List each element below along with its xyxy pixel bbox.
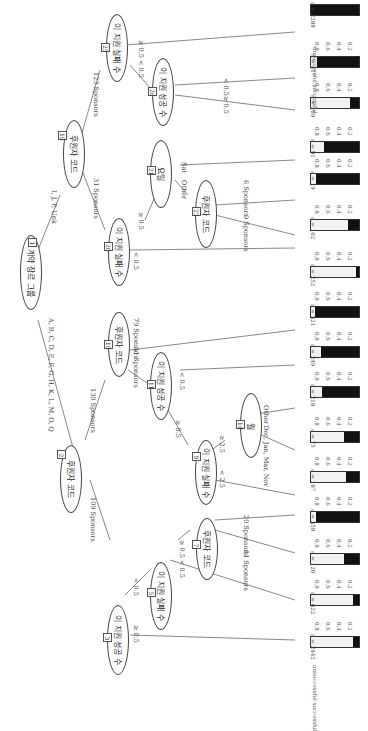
node-id-5: 5 [147,588,156,597]
node-label: 후원자 코드 [201,195,212,233]
leaf-bar-successful [311,220,348,230]
axis-tick: 0.4 [336,539,342,548]
axis-tick: 0.2 [347,622,353,631]
leaf-bar [310,636,360,648]
axis-tick: 0.6 [325,497,331,506]
axis-tick: 0.8 [314,497,320,506]
axis-tick: 0.2 [347,332,353,341]
leaf-bar [310,594,360,606]
axis-tick: 0.6 [325,42,331,51]
edge-label: < 0.5 [132,578,140,596]
axis-tick: 0.2 [347,580,353,589]
edge-label: ≥ 0.5 [137,212,145,230]
node-id-3: 3 [103,633,112,642]
node-id-19: 19 [58,131,67,140]
edge-label: Dec, Jan, Mar, Nov [262,425,270,487]
node-id-14: 14 [236,420,245,429]
leaf-bar [310,266,360,278]
axis-tick: 0.6 [325,292,331,301]
leaf-bar [310,346,360,358]
node-id-11: 11 [147,380,156,389]
edge-label: 79 Sponsors [132,318,140,359]
leaf-bar-successful [311,637,353,647]
leaf-bar-successful [311,472,346,482]
node-label: 이 지원 실패 수 [114,227,125,277]
leaf-bar [310,306,360,318]
axis-tick: 0.4 [336,159,342,168]
axis-tick: 0.4 [336,42,342,51]
leaf-count: n = 358 [310,509,316,531]
leaf-node: n = 22880.80.60.40.2 [300,0,360,40]
leaf-count: n = 120 [310,551,316,573]
axis-tick: 0.6 [325,205,331,214]
leaf-count: n = 521 [310,304,316,326]
leaf-bar-successful [311,595,353,605]
axis-tick: 0.2 [347,292,353,301]
leaf-count: n = 102 [310,217,316,239]
node-label: 이 지원 성공 수 [113,615,124,665]
node-id-1: 1 [28,238,37,247]
axis-tick: 0.4 [336,205,342,214]
axis-tick: 0.4 [336,372,342,381]
axis-tick: 0.4 [336,292,342,301]
leaf-count: n = 252 [310,264,316,286]
axis-tick: 0.4 [336,457,342,466]
axis-tick: 0.6 [325,622,331,631]
edge-label: < 2.5 [218,470,226,488]
node-id-7: 7 [192,540,201,549]
edge-label: < 0.5 [178,372,186,390]
leaf-bar [310,4,360,16]
leaf-node: n = 190.80.60.40.2 [300,169,360,209]
leaf-count: n = 249 [310,344,316,366]
axis-tick: 0.2 [347,372,353,381]
node-id-23: 23 [192,207,201,216]
node-label: 후원자 코드 [66,460,77,498]
axis-tick: 0.2 [347,127,353,136]
axis-tick: 0.6 [325,83,331,92]
node-9: 이 지원 실패 수 [195,440,217,505]
axis-tick: 0.4 [336,580,342,589]
node-label: 이 지원 성공 수 [156,361,167,411]
node-id-10: 10 [104,340,113,349]
leaf-count: n = 91 [310,139,316,158]
node-label: 월 [246,422,257,429]
axis-tick: 0.6 [325,372,331,381]
edge-label: 11 Sponsors [242,550,250,591]
axis-tick: 0.6 [325,457,331,466]
axis-tick: 0.8 [314,252,320,261]
axis-tick: 0.8 [314,417,320,426]
edge-label: 9 Sponsors [242,215,250,252]
leaf-bar [310,173,360,185]
axis-tick: 0.8 [314,622,320,631]
edge-label: < 0.5 [222,78,230,96]
axis-tick: 0.8 [314,457,320,466]
axis-tick: 0.4 [336,497,342,506]
edge-label: 130 Sponsors [89,388,97,433]
axis-tick: 0.4 [336,127,342,136]
node-id-20: 20 [104,242,113,251]
axis-tick: 0.2 [347,417,353,426]
leaf-node: n = 1020.80.60.40.2 [300,215,360,255]
axis-tick: 0.2 [347,497,353,506]
edge-label: ≥ 0.5 [174,420,182,438]
edge-label: ≥ 0.5 [222,96,230,114]
axis-tick: 0.6 [325,539,331,548]
axis-tick: 0.6 [325,580,331,589]
edge-label: 109 Sponsors [89,497,97,542]
axis-tick: 0.8 [314,159,320,168]
node-id-9: 9 [192,452,201,461]
leaf-count: n = 622 [310,592,316,614]
node-id-25: 25 [101,43,110,52]
leaf-count: n = 218 [310,384,316,406]
node-id-21: 21 [147,166,156,175]
leaf-node: n = 2180.80.60.40.2 [300,382,360,422]
edge-label: Sat [180,162,188,173]
axis-tick: 0.4 [336,83,342,92]
legend-bottom: unsuccessful successful [312,665,318,731]
axis-tick: 0.8 [314,205,320,214]
axis-tick: 0.2 [347,539,353,548]
edge-label: < 0.5 [132,252,140,270]
edge-label: ≥ 0.5 [132,625,140,643]
edge-label: < 0.5 [137,60,145,78]
node-7: 후원자 코드 [196,518,218,580]
